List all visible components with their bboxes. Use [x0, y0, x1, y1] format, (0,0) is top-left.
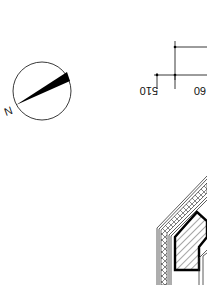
architectural-drawing: N 510 60	[0, 0, 207, 285]
dimension-lines: 510 60	[140, 41, 207, 97]
wall-section	[157, 176, 207, 285]
north-arrow: N	[3, 62, 71, 120]
north-label: N	[3, 104, 15, 118]
dimension-510: 510	[140, 85, 158, 97]
dimension-60: 60	[194, 85, 206, 97]
